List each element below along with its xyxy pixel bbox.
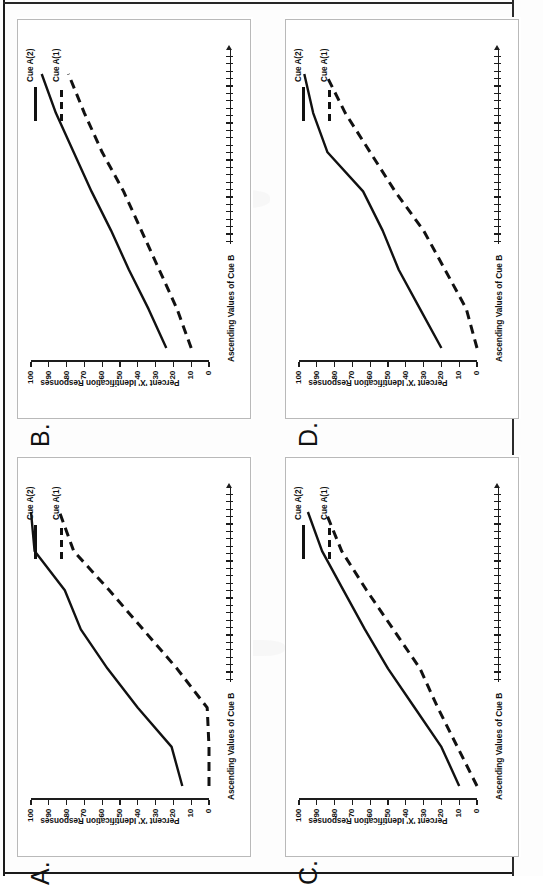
x-tick-mark (226, 137, 233, 138)
x-tick-mark (226, 196, 233, 197)
panel-D-letter: D. (294, 422, 323, 447)
x-tick-mark (226, 597, 233, 598)
x-tick-mark (494, 167, 501, 168)
x-tick-mark (494, 115, 501, 116)
x-tick-mark (494, 174, 501, 175)
x-tick-mark (226, 145, 233, 146)
x-tick-mark (494, 63, 501, 64)
x-tick-mark (494, 219, 501, 220)
panel-B-x-axis: Ascending Values of Cue B (222, 32, 246, 362)
x-tick-mark (226, 71, 233, 72)
panel-A-legend: Cue A(2) Cue A(1) (25, 473, 77, 559)
x-tick-mark (226, 108, 233, 109)
x-tick-mark (226, 182, 233, 183)
legend-entry-cue-a1: Cue A(1) (51, 35, 77, 121)
panel-D-x-axis-title: Ascending Values of Cue B (494, 255, 504, 362)
legend-entry-cue-a2: Cue A(2) (293, 35, 319, 121)
x-tick-mark (494, 657, 501, 658)
x-tick-mark (226, 553, 233, 554)
x-tick-mark (226, 63, 233, 64)
x-tick-mark (494, 583, 501, 584)
panel-C-letter: C. (294, 860, 323, 885)
x-tick-mark (494, 71, 501, 72)
x-tick-mark (494, 627, 501, 628)
x-tick-mark (226, 152, 233, 153)
x-tick-mark (226, 100, 233, 101)
x-tick-mark (494, 671, 501, 672)
x-tick-mark (494, 85, 501, 86)
legend-label-cue-a1: Cue A(1) (320, 487, 329, 520)
x-tick-mark (226, 575, 233, 576)
legend-swatch-solid-icon (302, 87, 305, 121)
legend-entry-cue-a2: Cue A(2) (25, 473, 51, 559)
x-tick-mark (494, 108, 501, 109)
legend-label-cue-a1: Cue A(1) (52, 49, 61, 82)
panel-B-x-axis-arrowhead (226, 45, 232, 50)
x-tick-mark (226, 93, 233, 94)
x-tick-mark (226, 679, 233, 680)
legend-label-cue-a1: Cue A(1) (52, 487, 61, 520)
x-tick-mark (494, 56, 501, 57)
x-tick-mark (494, 575, 501, 576)
panel-D-canvas: Percent 'X' Identification Responses 100… (285, 17, 521, 419)
x-tick-mark (226, 612, 233, 613)
x-tick-mark (494, 145, 501, 146)
x-tick-mark (226, 531, 233, 532)
legend-label-cue-a1: Cue A(1) (320, 49, 329, 82)
x-tick-mark (494, 634, 501, 635)
panel-A-x-axis-arrowhead (226, 483, 232, 488)
legend-label-cue-a2: Cue A(2) (294, 49, 303, 82)
x-tick-mark (226, 115, 233, 116)
x-tick-mark (494, 159, 501, 160)
x-tick-mark (226, 204, 233, 205)
x-tick-mark (494, 130, 501, 131)
x-tick-mark (494, 649, 501, 650)
x-tick-mark (226, 620, 233, 621)
panel-C-legend: Cue A(2) Cue A(1) (293, 473, 345, 559)
panel-B-x-axis-title: Ascending Values of Cue B (226, 255, 236, 362)
x-tick-mark (226, 233, 233, 234)
x-tick-mark (494, 560, 501, 561)
x-tick-mark (226, 538, 233, 539)
panel-D-x-axis-arrowhead (494, 45, 500, 50)
legend-swatch-solid-icon (302, 525, 305, 559)
x-tick-mark (494, 93, 501, 94)
x-tick-mark (226, 122, 233, 123)
legend-swatch-dashed-icon (328, 525, 331, 559)
x-tick-mark (494, 233, 501, 234)
x-tick-mark (494, 620, 501, 621)
legend-swatch-dashed-icon (60, 525, 63, 559)
x-tick-mark (494, 605, 501, 606)
x-tick-mark (226, 211, 233, 212)
x-tick-mark (494, 642, 501, 643)
legend-entry-cue-a1: Cue A(1) (319, 35, 345, 121)
x-tick-mark (494, 182, 501, 183)
panel-D-legend: Cue A(2) Cue A(1) (293, 35, 345, 121)
x-tick-mark (226, 516, 233, 517)
x-tick-mark (226, 583, 233, 584)
legend-swatch-solid-icon (34, 525, 37, 559)
panel-B-legend: Cue A(2) Cue A(1) (25, 35, 77, 121)
x-tick-mark (494, 100, 501, 101)
legend-entry-cue-a2: Cue A(2) (25, 35, 51, 121)
legend-label-cue-a2: Cue A(2) (26, 487, 35, 520)
x-tick-mark (226, 590, 233, 591)
x-tick-mark (494, 523, 501, 524)
x-tick-mark (494, 196, 501, 197)
panel-C-x-axis: Ascending Values of Cue B (490, 470, 514, 800)
x-tick-mark (494, 494, 501, 495)
x-tick-mark (226, 174, 233, 175)
x-tick-mark (494, 679, 501, 680)
x-tick-mark (226, 494, 233, 495)
panel-C-x-axis-title: Ascending Values of Cue B (494, 693, 504, 800)
x-tick-mark (226, 509, 233, 510)
x-tick-mark (494, 122, 501, 123)
x-tick-mark (226, 649, 233, 650)
legend-entry-cue-a2: Cue A(2) (293, 473, 319, 559)
x-tick-mark (494, 553, 501, 554)
x-tick-mark (226, 241, 233, 242)
x-tick-mark (226, 189, 233, 190)
x-tick-mark (494, 664, 501, 665)
legend-swatch-dashed-icon (328, 87, 331, 121)
